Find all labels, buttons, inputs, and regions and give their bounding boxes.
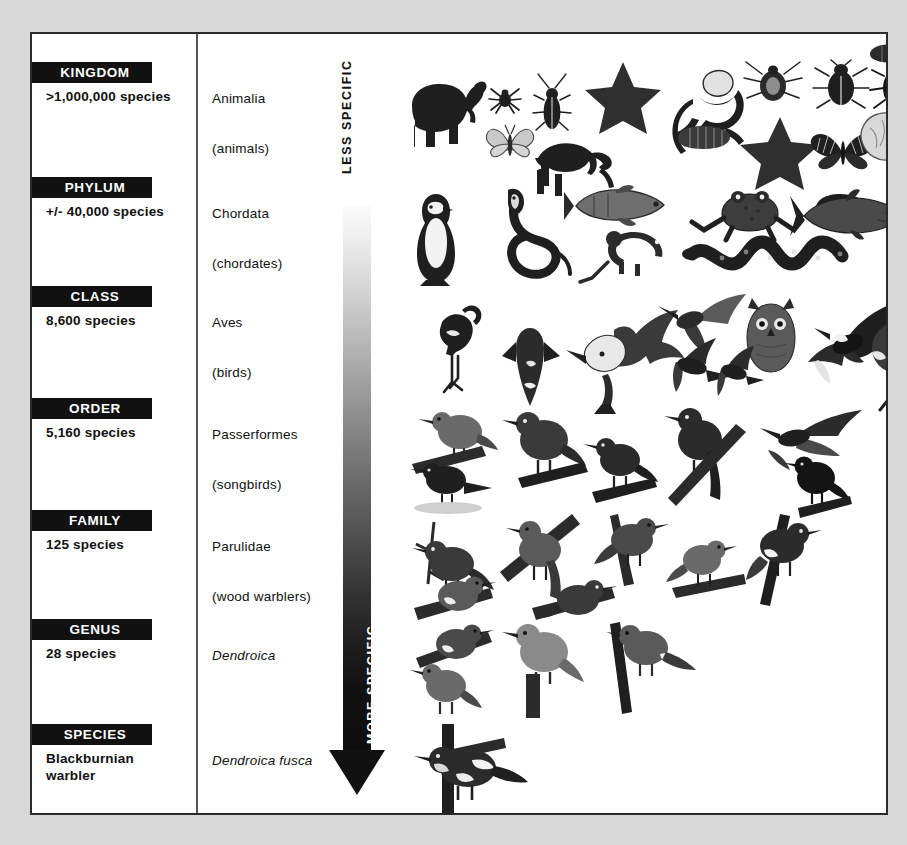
- taxon-name-kingdom: Animalia: [212, 91, 265, 106]
- illustration-band-genus: [392, 620, 888, 726]
- taxon-common-kingdom: (animals): [212, 141, 269, 156]
- rank-label-order: ORDER: [32, 398, 152, 419]
- larva-illustration-1: [866, 40, 888, 66]
- arrow-label-more-specific: MORE SPECIFIC: [365, 625, 379, 744]
- illustration-band-class: [392, 292, 888, 418]
- larva-illustration-2: [672, 120, 736, 154]
- illustration-band-order: [392, 406, 888, 522]
- rank-taxon-family: Parulidae (wood warblers): [212, 509, 311, 609]
- rank-taxon-class: Aves (birds): [212, 285, 252, 385]
- songbird-illustration-6: [402, 458, 494, 516]
- taxonomy-figure: KINGDOM >1,000,000 species Animalia (ani…: [30, 32, 888, 815]
- penguin-illustration: [412, 190, 462, 286]
- flying-bird-illustration: [702, 344, 764, 400]
- taxon-common-phylum: (chordates): [212, 256, 282, 271]
- taxon-common-order: (songbirds): [212, 477, 282, 492]
- genus-warbler-illustration-4: [598, 620, 704, 716]
- taxon-name-species: Dendroica fusca: [212, 753, 313, 768]
- elephant-illustration: [404, 76, 490, 148]
- taxon-common-family: (wood warblers): [212, 589, 311, 604]
- songbird-illustration-5: [784, 454, 854, 520]
- illustration-pyramid: [392, 34, 888, 815]
- rank-label-family: FAMILY: [32, 510, 152, 531]
- illustration-band-family: [392, 512, 888, 622]
- blackburnian-warbler-illustration: [412, 724, 536, 815]
- rank-taxon-phylum: Chordata (chordates): [212, 176, 282, 276]
- rank-label-species: SPECIES: [32, 724, 152, 745]
- illustration-band-kingdom: [392, 34, 888, 174]
- arrow-label-less-specific: LESS SPECIFIC: [340, 59, 354, 174]
- taxon-name-family: Parulidae: [212, 539, 271, 554]
- rank-count-genus: 28 species: [46, 645, 116, 662]
- rank-label-kingdom: KINGDOM: [32, 62, 152, 83]
- sponge-illustration: [854, 108, 888, 166]
- rank-taxon-species: Dendroica fusca: [212, 723, 313, 773]
- rank-count-phylum: +/- 40,000 species: [46, 203, 164, 220]
- rank-taxon-order: Passerformes (songbirds): [212, 397, 298, 497]
- rank-count-kingdom: >1,000,000 species: [46, 88, 171, 105]
- genus-warbler-illustration-2: [410, 658, 488, 722]
- songbird-illustration-2: [500, 406, 592, 496]
- rank-count-class: 8,600 species: [46, 312, 136, 329]
- beetle-illustration-2: [812, 60, 870, 112]
- rank-label-genus: GENUS: [32, 619, 152, 640]
- taxon-name-genus: Dendroica: [212, 648, 275, 663]
- shark-illustration: [790, 188, 888, 240]
- rank-count-family: 125 species: [46, 536, 124, 553]
- taxon-name-class: Aves: [212, 315, 243, 330]
- warbler-illustration-5: [730, 512, 826, 612]
- rank-label-phylum: PHYLUM: [32, 177, 152, 198]
- hawk-illustration: [500, 322, 562, 410]
- mouse-illustration: [578, 222, 688, 286]
- rank-taxon-genus: Dendroica: [212, 618, 275, 668]
- arrow-head-icon: [329, 750, 385, 795]
- songbird-illustration-4: [660, 406, 752, 516]
- taxon-name-order: Passerformes: [212, 427, 298, 442]
- specificity-arrow: LESS SPECIFIC MORE SPECIFIC: [328, 34, 398, 815]
- tick-illustration: [742, 56, 804, 110]
- rank-count-species: Blackburnian warbler: [46, 750, 134, 784]
- spider-illustration: [488, 84, 522, 114]
- songbird-illustration-3: [582, 434, 666, 510]
- illustration-band-species: [392, 724, 888, 815]
- taxon-common-class: (birds): [212, 365, 252, 380]
- ibis-illustration: [426, 298, 486, 402]
- snake-illustration: [682, 232, 864, 286]
- beetle-illustration-1: [532, 72, 572, 132]
- illustration-band-phylum: [392, 174, 888, 294]
- rank-count-order: 5,160 species: [46, 424, 136, 441]
- ostrich-illustration: [862, 294, 888, 414]
- taxon-name-phylum: Chordata: [212, 206, 269, 221]
- rank-taxon-kingdom: Animalia (animals): [212, 61, 269, 161]
- genus-warbler-illustration-3: [496, 620, 592, 718]
- fish-illustration-1: [564, 182, 676, 226]
- rank-label-class: CLASS: [32, 286, 152, 307]
- starfish-illustration-1: [584, 60, 662, 134]
